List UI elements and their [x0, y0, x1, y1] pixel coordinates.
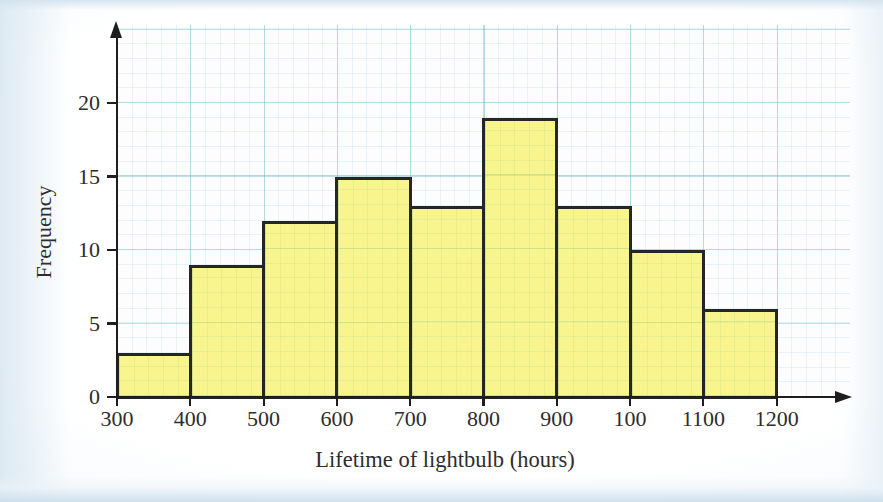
x-tick-label: 400	[153, 407, 227, 431]
histogram-bar	[189, 265, 265, 399]
x-tick-mark	[482, 397, 484, 406]
y-axis-arrow-icon	[110, 21, 122, 38]
histogram-bar	[116, 353, 192, 399]
x-tick-label: 500	[227, 407, 301, 431]
x-tick-mark	[263, 397, 265, 406]
x-tick-mark	[629, 397, 631, 406]
histogram-bar	[409, 206, 485, 399]
y-tick-mark	[107, 396, 116, 398]
y-axis-line	[116, 36, 119, 398]
y-axis-title: Frequency	[31, 186, 57, 279]
y-tick-label: 5	[0, 312, 100, 336]
y-tick-mark	[107, 249, 116, 251]
x-tick-label: 600	[300, 407, 374, 431]
histogram-bar	[482, 118, 558, 399]
y-tick-label: 20	[0, 91, 100, 115]
x-tick-mark	[556, 397, 558, 406]
x-tick-label: 700	[373, 407, 447, 431]
histogram-bar	[702, 309, 778, 399]
x-tick-mark	[336, 397, 338, 406]
x-tick-mark	[776, 397, 778, 406]
histogram-bar	[262, 221, 338, 399]
x-axis-title: Lifetime of lightbulb (hours)	[115, 447, 775, 473]
x-tick-label: 900	[520, 407, 594, 431]
histogram-bar	[555, 206, 631, 399]
histogram-bar	[335, 177, 411, 400]
x-tick-mark	[189, 397, 191, 406]
page-background: 05101520 3004005006007008009001001100120…	[0, 0, 883, 502]
x-tick-label: 1200	[740, 407, 814, 431]
x-tick-label: 1100	[666, 407, 740, 431]
y-tick-mark	[107, 175, 116, 177]
y-tick-mark	[107, 102, 116, 104]
x-tick-mark	[702, 397, 704, 406]
y-tick-mark	[107, 322, 116, 324]
x-tick-mark	[116, 397, 118, 406]
x-tick-label: 100	[593, 407, 667, 431]
x-tick-mark	[409, 397, 411, 406]
plot-area	[117, 25, 850, 397]
x-tick-label: 800	[447, 407, 521, 431]
x-axis-line	[116, 396, 838, 399]
histogram-bar	[629, 250, 705, 399]
y-tick-label: 0	[0, 385, 100, 409]
x-axis-arrow-icon	[835, 391, 852, 403]
x-tick-label: 300	[80, 407, 154, 431]
histogram-chart: 05101520 3004005006007008009001001100120…	[0, 0, 883, 502]
